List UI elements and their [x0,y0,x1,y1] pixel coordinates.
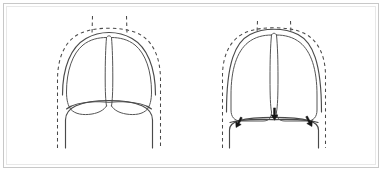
diaphragm-abdomen-outline [66,101,153,149]
dashed-reference-outline-normal [58,28,161,148]
normal-chest-drawing [0,0,191,171]
normal-chest-panel [0,0,191,171]
diaphragm-displacement-arrows [233,108,314,129]
figure-root: Chest outline comparison: normal versus … [0,0,382,171]
mediastinal-border-left [270,35,272,112]
hyperinflated-chest-panel [191,0,382,171]
rib-cage-arc [63,33,156,96]
hyperinflated-chest-drawing [191,0,382,171]
chest-wall-outline-hyperinflated [227,29,322,112]
apex-dashed-markers-normal [92,16,127,34]
panels-container [0,0,382,171]
dashed-chest-contour [58,28,161,148]
mediastinal-border-right [112,38,113,107]
chest-wall-outline-normal [63,33,156,96]
diaphragm-abdomen-outline [230,117,319,148]
apex-dashed-marker-right [127,16,128,34]
apex-dashed-marker-left [92,16,93,34]
rib-cage-arc [227,29,322,112]
apex-dashed-markers-hyperinflated [257,21,291,33]
mediastinal-border-right [277,35,279,112]
diaphragm-dome-upper [67,102,152,109]
mediastinum-apex-connector [272,33,277,35]
mediastinal-border-left [105,38,106,107]
mediastinum-apex-connector [107,36,112,38]
